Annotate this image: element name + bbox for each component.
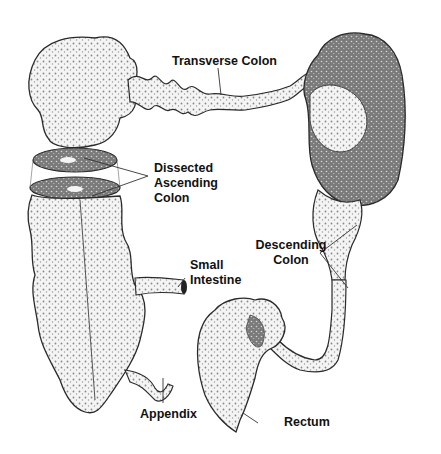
- label-line: Descending: [255, 238, 327, 253]
- label-line: Colon: [154, 191, 218, 206]
- label-appendix: Appendix: [140, 407, 197, 422]
- label-dissected-ascending-colon: Dissected Ascending Colon: [154, 161, 218, 206]
- label-line: Colon: [255, 253, 327, 268]
- label-line: Intestine: [190, 273, 241, 288]
- label-line: Ascending: [154, 176, 218, 191]
- ascending-colon-upper: [29, 37, 137, 148]
- ascending-colon-lower: [28, 195, 145, 413]
- label-descending-colon: Descending Colon: [255, 238, 327, 268]
- transverse-colon-shape: [128, 70, 318, 115]
- colon-anatomy-diagram: Transverse Colon Dissected Ascending Col…: [0, 0, 441, 454]
- label-small-intestine: Small Intestine: [190, 258, 241, 288]
- label-line: Small: [190, 258, 241, 273]
- rectum-shape: [198, 298, 285, 432]
- label-rectum: Rectum: [284, 415, 330, 430]
- label-transverse-colon: Transverse Colon: [172, 54, 277, 69]
- label-line: Dissected: [154, 161, 218, 176]
- small-intestine-shape: [135, 277, 184, 295]
- appendix-shape: [125, 370, 173, 401]
